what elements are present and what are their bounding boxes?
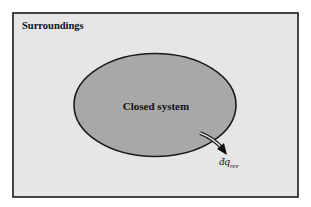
diagram-canvas: Surroundings Closed system đqrev: [0, 0, 311, 207]
closed-system-diagram: Surroundings Closed system đqrev: [0, 0, 311, 207]
surroundings-label: Surroundings: [22, 20, 84, 31]
heat-label-subscript: rev: [230, 162, 240, 170]
heat-label-main: đq: [219, 155, 231, 167]
closed-system-label: Closed system: [123, 100, 189, 112]
